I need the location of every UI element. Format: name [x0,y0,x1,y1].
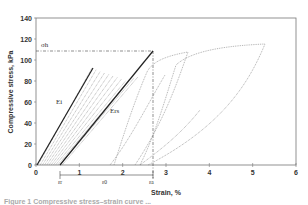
y-tick-label: 0 [28,162,32,169]
x-tick-label: 6 [294,169,298,176]
figure-caption: Figure 1 Compressive stress–strain curve… [4,198,151,205]
cycle-line [40,70,96,165]
eps-0-label: ε0 [102,179,107,185]
ers-label: Ers [110,107,120,115]
sigma-h-label: σh [41,41,49,49]
cycle-line [45,73,105,165]
x-tick-label: 4 [207,169,211,176]
plot-frame [36,18,296,165]
cycle-line [51,78,117,165]
cycle-line [53,79,121,165]
loop-a [114,52,188,165]
dense-loops [38,68,138,165]
x-tick-label: 5 [251,169,255,176]
y-tick-label: 80 [24,78,32,85]
y-axis-title: Compressive stress, kPa [7,50,15,133]
loop-d [140,110,200,165]
x-axis-title: Strain, % [151,189,182,197]
eps-r-label: εr [58,179,62,185]
loop-c [110,75,165,165]
y-tick-label: 120 [20,36,32,43]
cycle-line [56,81,126,165]
y-tick-label: 60 [24,99,32,106]
ei-label: Ei [56,98,62,106]
loop-b [140,44,265,165]
y-tick-label: 40 [24,120,32,127]
ei-line [37,68,93,165]
eps-a-label: εa [149,179,154,185]
stress-strain-chart: 020406080100120140 0123456 Compressive s… [0,0,308,205]
y-axis: 020406080100120140 [20,15,36,169]
x-tick-label: 0 [34,169,38,176]
y-tick-label: 140 [20,15,32,22]
y-tick-label: 20 [24,141,32,148]
ers-line [60,51,153,165]
y-tick-label: 100 [20,57,32,64]
cycle-line [47,74,109,165]
x-tick-label: 3 [164,169,168,176]
outer-loops [110,44,265,165]
